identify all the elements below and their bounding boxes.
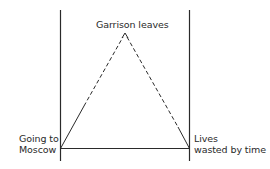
right-label-line1: Lives [194,134,266,145]
left-label-line1: Going to [19,134,59,145]
right-label: Lives wasted by time [194,134,266,155]
right-label-line2: wasted by time [194,145,266,156]
left-label-line2: Moscow [19,145,59,156]
right-diagonal-solid [178,127,190,149]
right-diagonal-dashed [127,37,178,127]
left-diagonal-solid [61,106,85,149]
left-label: Going to Moscow [19,134,59,155]
left-diagonal-dashed [84,37,123,106]
apex-label: Garrison leaves [96,20,169,31]
